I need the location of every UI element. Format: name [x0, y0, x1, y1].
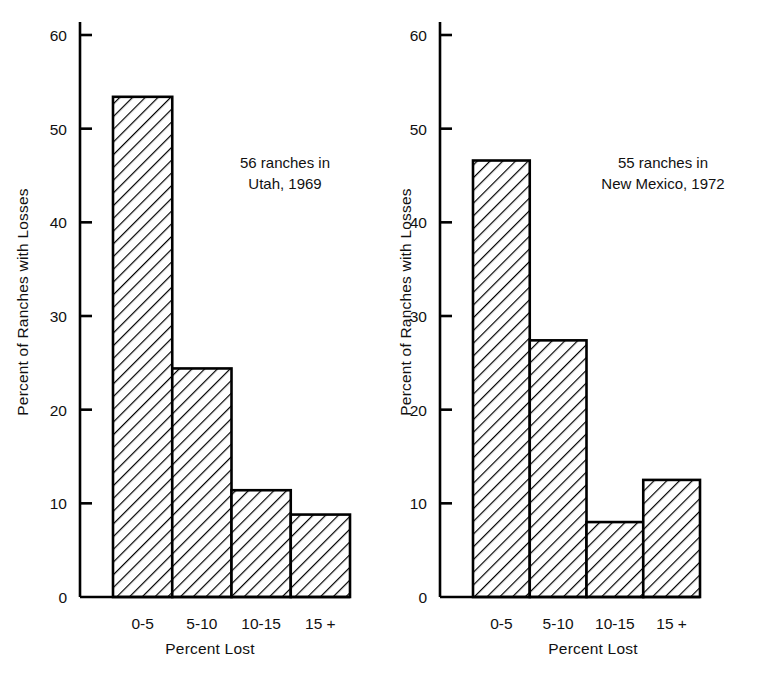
- y-tick-label: 50: [410, 121, 428, 138]
- x-category-label: 5-10: [186, 615, 217, 632]
- y-tick-label: 20: [410, 402, 428, 419]
- histogram-bar: [587, 522, 644, 597]
- histogram-bar: [473, 161, 530, 597]
- x-axis-label: Percent Lost: [443, 640, 743, 658]
- histogram-bar: [530, 340, 587, 597]
- x-category-label: 15 +: [305, 615, 336, 632]
- x-category-label: 0-5: [490, 615, 512, 632]
- y-tick-label: 60: [410, 27, 428, 44]
- y-tick-label: 40: [410, 214, 428, 231]
- y-tick-label: 20: [50, 402, 68, 419]
- y-tick-label: 0: [418, 589, 427, 606]
- plot-area-utah: 0102030405060 0-55-1010-1515 +: [0, 0, 383, 685]
- histogram-bar: [172, 368, 231, 597]
- chart-panel-new-mexico: Percent of Ranches with Losses 010203040…: [383, 0, 766, 685]
- x-category-label: 5-10: [543, 615, 574, 632]
- x-category-label: 0-5: [131, 615, 153, 632]
- bar-group-new-mexico: [473, 161, 700, 597]
- y-tick-label: 50: [50, 121, 68, 138]
- x-axis-label: Percent Lost: [60, 640, 360, 658]
- chart-panel-utah: Percent of Ranches with Losses 010203040…: [0, 0, 383, 685]
- y-tick-labels-utah: 0102030405060: [50, 27, 68, 606]
- x-tick-labels-new-mexico: 0-55-1010-1515 +: [490, 615, 687, 632]
- histogram-bar: [232, 490, 291, 597]
- x-category-label: 15 +: [656, 615, 687, 632]
- plot-area-new-mexico: 0102030405060 0-55-1010-1515 +: [383, 0, 766, 685]
- histogram-bar: [291, 515, 350, 597]
- y-tick-label: 30: [50, 308, 68, 325]
- histogram-bar: [643, 480, 700, 597]
- x-tick-labels-utah: 0-55-1010-1515 +: [131, 615, 335, 632]
- x-category-label: 10-15: [595, 615, 635, 632]
- y-tick-label: 10: [50, 495, 68, 512]
- y-tick-label: 30: [410, 308, 428, 325]
- panel-annotation: 56 ranches in Utah, 1969: [190, 152, 380, 194]
- x-category-label: 10-15: [241, 615, 281, 632]
- y-tick-label: 40: [50, 214, 68, 231]
- figure-container: Percent of Ranches with Losses 010203040…: [0, 0, 766, 685]
- y-tick-label: 60: [50, 27, 68, 44]
- y-tick-labels-new-mexico: 0102030405060: [410, 27, 428, 606]
- y-tick-label: 0: [58, 589, 67, 606]
- y-tick-label: 10: [410, 495, 428, 512]
- panel-annotation: 55 ranches in New Mexico, 1972: [563, 152, 763, 194]
- histogram-bar: [113, 97, 172, 597]
